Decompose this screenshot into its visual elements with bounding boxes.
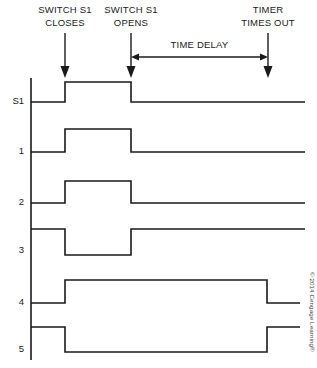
switch-opens-line1: SWITCH S1 xyxy=(104,4,158,15)
time-delay-arrow-head-left xyxy=(131,54,139,61)
waveform-5 xyxy=(31,327,300,352)
time-delay-measure: TIME DELAY xyxy=(131,39,268,61)
waveform-4 xyxy=(31,280,300,303)
timer-times-out-line1: TIMER xyxy=(253,4,284,15)
annotation-switch-closes: SWITCH S1 CLOSES xyxy=(38,4,92,78)
waveform-s1 xyxy=(31,82,305,102)
row-label-2: 2 xyxy=(19,196,24,207)
switch-closes-line1: SWITCH S1 xyxy=(38,4,92,15)
timing-diagram-figure: SWITCH S1 CLOSES SWITCH S1 OPENS TIMER T… xyxy=(0,0,317,368)
waveform-2 xyxy=(31,181,305,203)
time-delay-arrow-head-right xyxy=(260,54,268,61)
row-label-1: 1 xyxy=(19,145,24,156)
switch-closes-line2: CLOSES xyxy=(45,17,85,28)
waveform-3 xyxy=(31,229,305,255)
row-label-s1: S1 xyxy=(12,95,24,106)
annotation-timer-times-out: TIMER TIMES OUT xyxy=(241,4,295,78)
switch-closes-arrow-head xyxy=(61,66,70,78)
copyright-credit: © 2014 Cengage Learning® xyxy=(309,272,316,352)
time-delay-label: TIME DELAY xyxy=(171,39,229,50)
timer-times-out-line2: TIMES OUT xyxy=(241,17,295,28)
switch-opens-line2: OPENS xyxy=(114,17,148,28)
timer-times-out-arrow-head xyxy=(264,66,273,78)
row-label-group: S112345 xyxy=(12,95,24,354)
row-label-5: 5 xyxy=(19,343,24,354)
switch-opens-arrow-head xyxy=(127,66,136,78)
row-label-4: 4 xyxy=(19,296,24,307)
waveform-group xyxy=(31,82,305,352)
timing-diagram-canvas: SWITCH S1 CLOSES SWITCH S1 OPENS TIMER T… xyxy=(0,0,317,368)
annotation-switch-opens: SWITCH S1 OPENS xyxy=(104,4,158,78)
waveform-1 xyxy=(31,129,305,152)
row-label-3: 3 xyxy=(19,244,24,255)
